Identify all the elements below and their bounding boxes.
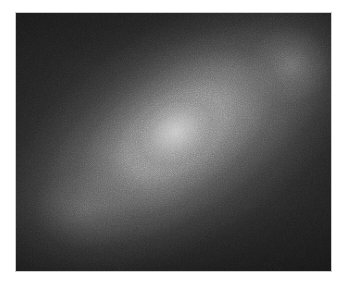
inner-halo-layer <box>15 12 332 272</box>
film-grain-layer <box>16 13 331 271</box>
outer-halo-layer <box>15 12 332 272</box>
corner-vignette-layer <box>16 13 331 271</box>
tertiary-lobe-lower-left-layer <box>16 13 331 271</box>
fine-grain-layer <box>16 13 331 271</box>
image-panel <box>15 12 332 272</box>
figure-root <box>0 0 347 284</box>
secondary-lobe-upper-right-layer <box>16 13 331 271</box>
primary-core-layer <box>15 12 332 272</box>
